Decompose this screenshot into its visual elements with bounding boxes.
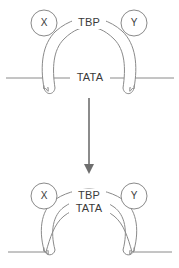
subunit-label-y-after: Y xyxy=(131,190,138,201)
protein-label-after: TBP xyxy=(78,189,100,201)
diagram-canvas: X Y TBP TATA xyxy=(0,0,179,268)
subunit-label-x-before: X xyxy=(41,17,48,28)
subunit-label-x-after: X xyxy=(41,190,48,201)
dna-label-before: TATA xyxy=(77,71,104,83)
tbp-dna-bending-diagram: X Y TBP TATA xyxy=(0,0,179,268)
arrow-head-down-icon xyxy=(84,164,94,174)
transition-arrow xyxy=(84,98,94,174)
panel-before-binding: X Y TBP TATA xyxy=(6,10,174,94)
subunit-label-y-before: Y xyxy=(131,17,138,28)
dna-label-after: TATA xyxy=(76,202,103,214)
panel-after-binding: X Y TBP TATA xyxy=(8,183,172,255)
protein-label-before: TBP xyxy=(78,16,100,28)
